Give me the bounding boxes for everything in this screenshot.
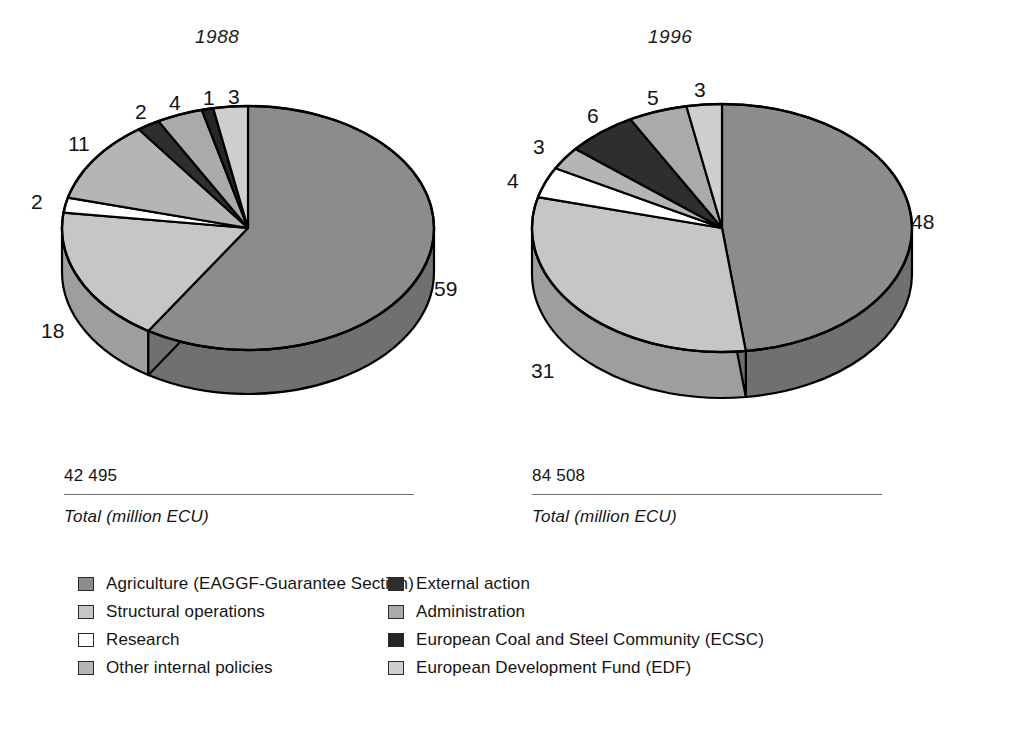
value-label-research-1988: 2 — [31, 191, 43, 212]
legend-item-edf: European Development Fund (EDF) — [388, 654, 828, 682]
value-label-structural-1996: 31 — [531, 360, 554, 381]
legend-item-ecsc: European Coal and Steel Community (ECSC) — [388, 626, 828, 654]
legend-label-external-action: External action — [416, 574, 530, 594]
value-label-external-1996: 6 — [587, 105, 599, 126]
total-value-1988: 42 495 — [64, 466, 414, 494]
legend-swatch-administration — [388, 605, 404, 619]
value-label-edf-1988: 3 — [228, 86, 240, 107]
legend-item-research: Research — [78, 626, 388, 654]
legend-swatch-ecsc — [388, 633, 404, 647]
legend-column-right: External action Administration European … — [388, 570, 828, 682]
total-value-1996: 84 508 — [532, 466, 882, 494]
legend-swatch-agriculture — [78, 577, 94, 591]
total-block-1988: 42 495 Total (million ECU) — [64, 466, 414, 527]
value-label-other-internal-1996: 3 — [533, 136, 545, 157]
value-label-research-1996: 4 — [507, 170, 519, 191]
legend-label-research: Research — [106, 630, 180, 650]
value-label-edf-1996: 3 — [694, 79, 706, 100]
total-caption-1996: Total (million ECU) — [532, 495, 882, 527]
value-label-external-1988: 2 — [135, 101, 147, 122]
value-label-agriculture-1996: 48 — [911, 211, 934, 232]
total-block-1996: 84 508 Total (million ECU) — [532, 466, 882, 527]
value-label-other-internal-1988: 11 — [68, 133, 90, 154]
value-label-administration-1996: 5 — [647, 87, 659, 108]
figure-root: 1988 59 18 2 11 2 4 1 3 1996 48 31 4 3 6… — [0, 0, 1009, 729]
legend: Agriculture (EAGGF-Guarantee Section) St… — [78, 570, 838, 682]
pie-panel-1988: 1988 59 18 2 11 2 4 1 3 — [0, 0, 505, 440]
value-label-administration-1988: 4 — [169, 92, 181, 113]
legend-column-left: Agriculture (EAGGF-Guarantee Section) St… — [78, 570, 388, 682]
legend-swatch-external-action — [388, 577, 404, 591]
legend-item-structural-operations: Structural operations — [78, 598, 388, 626]
legend-item-administration: Administration — [388, 598, 828, 626]
value-label-agriculture-1988: 59 — [434, 278, 457, 299]
legend-swatch-other-internal-policies — [78, 661, 94, 675]
legend-swatch-edf — [388, 661, 404, 675]
legend-label-administration: Administration — [416, 602, 525, 622]
legend-swatch-structural-operations — [78, 605, 94, 619]
total-caption-1988: Total (million ECU) — [64, 495, 414, 527]
pie-panel-1996: 1996 48 31 4 3 6 5 3 — [470, 0, 1009, 440]
legend-label-structural-operations: Structural operations — [106, 602, 265, 622]
pie-chart-1988 — [0, 0, 505, 440]
legend-label-edf: European Development Fund (EDF) — [416, 658, 691, 678]
legend-swatch-research — [78, 633, 94, 647]
legend-item-agriculture: Agriculture (EAGGF-Guarantee Section) — [78, 570, 388, 598]
legend-label-other-internal-policies: Other internal policies — [106, 658, 273, 678]
legend-item-external-action: External action — [388, 570, 828, 598]
legend-item-other-internal-policies: Other internal policies — [78, 654, 388, 682]
value-label-structural-1988: 18 — [41, 320, 64, 341]
legend-label-ecsc: European Coal and Steel Community (ECSC) — [416, 630, 764, 650]
value-label-ecsc-1988: 1 — [203, 87, 215, 108]
legend-label-agriculture: Agriculture (EAGGF-Guarantee Section) — [106, 574, 414, 594]
